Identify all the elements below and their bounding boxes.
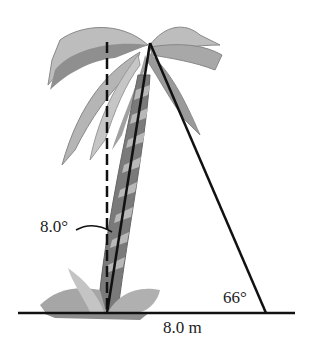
lean-angle-label: 8.0°	[40, 217, 68, 237]
sight-line	[150, 43, 266, 313]
palm-tree-diagram: 8.0° 66° 8.0 m	[0, 0, 311, 359]
elevation-angle-label: 66°	[223, 288, 247, 308]
distance-label: 8.0 m	[163, 318, 202, 338]
diagram-canvas	[0, 0, 311, 359]
